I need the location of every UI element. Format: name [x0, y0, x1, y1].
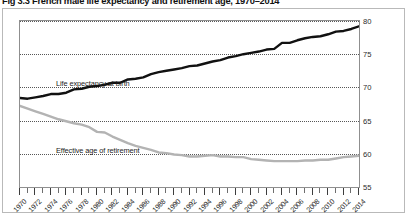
y-tick-label-80: 80: [363, 17, 371, 26]
x-tick-2014: [358, 188, 359, 195]
x-tick-1981: [104, 188, 105, 193]
x-tick-1996: [219, 188, 220, 195]
x-tick-2004: [281, 188, 282, 195]
page-title: Fig 3.3 French male life expectancy and …: [2, 0, 407, 7]
y-tick-label-65: 65: [363, 116, 371, 125]
series-annotation-life-expectancy: Life expectancy at birth: [56, 79, 130, 88]
x-tick-2006: [296, 188, 297, 195]
x-tick-label-1974: 1974: [42, 197, 59, 214]
x-tick-label-2010: 2010: [319, 197, 336, 214]
x-tick-1995: [212, 188, 213, 193]
x-tick-2007: [304, 188, 305, 193]
x-tick-2000: [250, 188, 251, 195]
x-tick-1985: [135, 188, 136, 193]
x-tick-2010: [327, 188, 328, 195]
x-tick-2012: [343, 188, 344, 195]
x-tick-1982: [111, 188, 112, 195]
x-tick-1980: [96, 188, 97, 195]
x-tick-label-1992: 1992: [181, 197, 198, 214]
x-tick-2001: [258, 188, 259, 193]
x-tick-1999: [242, 188, 243, 193]
figure-title-bar: Fig 3.3 French male life expectancy and …: [2, 0, 407, 8]
x-tick-label-1980: 1980: [88, 197, 105, 214]
x-tick-1988: [158, 188, 159, 195]
plot-area: Life expectancy at birthEffective age of…: [20, 21, 359, 187]
x-tick-label-2008: 2008: [304, 197, 321, 214]
x-tick-1972: [34, 188, 35, 195]
x-tick-1991: [181, 188, 182, 193]
x-tick-2005: [289, 188, 290, 193]
x-tick-1994: [204, 188, 205, 195]
x-tick-label-1994: 1994: [196, 197, 213, 214]
x-tick-2009: [319, 188, 320, 193]
x-tick-1976: [65, 188, 66, 195]
x-tick-1992: [189, 188, 190, 195]
x-tick-1978: [81, 188, 82, 195]
x-tick-1998: [235, 188, 236, 195]
x-tick-label-2014: 2014: [350, 197, 367, 214]
x-tick-label-2004: 2004: [273, 197, 290, 214]
x-tick-1987: [150, 188, 151, 193]
x-tick-label-1986: 1986: [135, 197, 152, 214]
x-tick-1990: [173, 188, 174, 195]
x-tick-label-1988: 1988: [150, 197, 167, 214]
series-annotation-retirement-age: Effective age of retirement: [56, 146, 139, 155]
x-tick-1974: [50, 188, 51, 195]
x-tick-1971: [27, 188, 28, 193]
x-tick-label-1984: 1984: [119, 197, 136, 214]
x-axis: 1970197219741976197819801982198419861988…: [19, 188, 360, 196]
x-tick-label-1990: 1990: [165, 197, 182, 214]
x-tick-label-1970: 1970: [11, 197, 28, 214]
x-tick-label-1976: 1976: [57, 197, 74, 214]
x-tick-1973: [42, 188, 43, 193]
x-tick-1986: [142, 188, 143, 195]
y-tick-label-70: 70: [363, 83, 371, 92]
x-tick-label-2000: 2000: [242, 197, 259, 214]
x-tick-1983: [119, 188, 120, 193]
series-layer: [20, 21, 359, 187]
x-tick-label-1982: 1982: [104, 197, 121, 214]
x-tick-1970: [19, 188, 20, 195]
x-tick-1997: [227, 188, 228, 193]
x-tick-label-1996: 1996: [212, 197, 229, 214]
x-tick-label-1998: 1998: [227, 197, 244, 214]
x-tick-2013: [350, 188, 351, 193]
x-tick-label-2002: 2002: [258, 197, 275, 214]
figure-card: Life expectancy at birthEffective age of…: [2, 8, 405, 213]
x-tick-1989: [165, 188, 166, 193]
plot-frame: Life expectancy at birthEffective age of…: [19, 20, 360, 188]
x-tick-1993: [196, 188, 197, 193]
y-tick-label-75: 75: [363, 50, 371, 59]
figure-container: Fig 3.3 French male life expectancy and …: [0, 0, 409, 218]
x-tick-label-2012: 2012: [335, 197, 352, 214]
x-tick-1975: [58, 188, 59, 193]
x-tick-1979: [88, 188, 89, 193]
x-tick-2002: [266, 188, 267, 195]
x-tick-2011: [335, 188, 336, 193]
y-tick-label-60: 60: [363, 149, 371, 158]
x-tick-label-1972: 1972: [27, 197, 44, 214]
x-tick-label-2006: 2006: [289, 197, 306, 214]
x-tick-1977: [73, 188, 74, 193]
y-tick-label-55: 55: [363, 183, 371, 192]
x-tick-2008: [312, 188, 313, 195]
x-tick-2003: [273, 188, 274, 193]
x-tick-label-1978: 1978: [73, 197, 90, 214]
x-tick-1984: [127, 188, 128, 195]
